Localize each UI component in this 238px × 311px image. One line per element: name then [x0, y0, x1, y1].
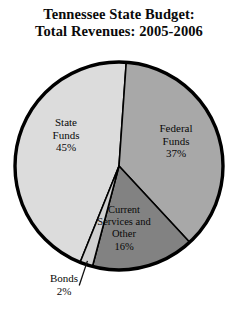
pie-svg: [0, 0, 238, 311]
pie-chart-figure: Tennessee State Budget: Total Revenues: …: [0, 0, 238, 311]
pie-graphic: [0, 0, 238, 311]
